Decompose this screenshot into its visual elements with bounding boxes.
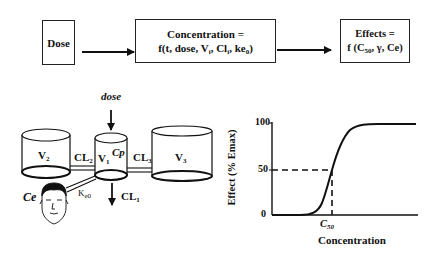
compartment-v2-label: V2 [38, 149, 49, 161]
cl2-label: CL2 [74, 151, 93, 163]
y-tick-50: 50 [258, 163, 268, 174]
cl1-label: CL1 [121, 190, 140, 202]
dose-label: dose [101, 90, 121, 102]
pipe-cl2 [69, 166, 96, 170]
pipe-cl3 [126, 168, 153, 172]
effect-chart [269, 122, 418, 215]
x-axis-label: Concentration [318, 234, 386, 246]
compartment-v1-label: V1 [98, 152, 109, 164]
diagram-graphics [0, 0, 436, 255]
y-tick-100: 100 [255, 116, 270, 127]
ke0-label: Ke0 [78, 188, 91, 198]
compartment-v3-label: V3 [175, 151, 186, 163]
ce-label: Ce [23, 190, 36, 205]
face-icon [40, 183, 68, 224]
y-axis-label: Effect (% Emax) [226, 123, 237, 213]
c50-annotation: C50 [320, 218, 334, 229]
cp-label: Cp [112, 146, 125, 158]
cl3-label: CL3 [133, 151, 152, 163]
y-tick-0: 0 [261, 208, 266, 219]
